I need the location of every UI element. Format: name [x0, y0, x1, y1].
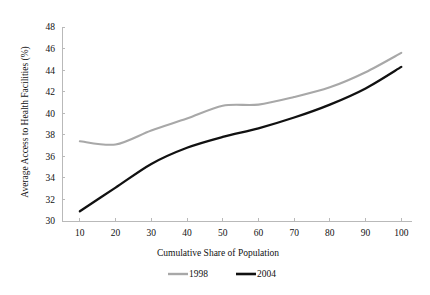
- x-tick-label: 10: [75, 228, 85, 238]
- y-tick-label: 48: [46, 22, 56, 32]
- legend-label-2004: 2004: [257, 269, 276, 279]
- series-line-2004: [80, 67, 401, 211]
- chart-container: 30323436384042444648 1020304050607080901…: [0, 0, 430, 295]
- x-tick-label: 90: [361, 228, 371, 238]
- legend-label-1998: 1998: [189, 269, 208, 279]
- x-axis-tick-labels: 102030405060708090100: [75, 228, 409, 238]
- y-tick-label: 36: [46, 152, 56, 162]
- x-tick-label: 50: [218, 228, 228, 238]
- x-tick-label: 30: [147, 228, 157, 238]
- x-tick-label: 70: [289, 228, 299, 238]
- chart-legend: 19982004: [168, 269, 276, 279]
- y-tick-label: 32: [46, 195, 56, 205]
- y-axis-tick-labels: 30323436384042444648: [46, 22, 56, 226]
- y-tick-label: 46: [46, 44, 56, 54]
- y-axis-title: Average Access to Health Facilities (%): [20, 46, 31, 198]
- data-series-group: [80, 53, 401, 211]
- plot-area: 30323436384042444648 1020304050607080901…: [46, 22, 413, 238]
- y-tick-label: 44: [46, 66, 56, 76]
- y-tick-label: 38: [46, 130, 56, 140]
- x-tick-label: 40: [182, 228, 192, 238]
- y-tick-label: 30: [46, 216, 56, 226]
- x-tick-label: 80: [325, 228, 335, 238]
- y-tick-label: 34: [46, 173, 56, 183]
- x-tick-label: 100: [394, 228, 409, 238]
- x-axis-title: Cumulative Share of Population: [157, 248, 279, 258]
- x-tick-label: 20: [111, 228, 121, 238]
- y-tick-label: 42: [46, 87, 56, 97]
- y-tick-label: 40: [46, 109, 56, 119]
- x-tick-label: 60: [254, 228, 264, 238]
- series-line-1998: [80, 53, 401, 145]
- line-chart: 30323436384042444648 1020304050607080901…: [0, 0, 430, 295]
